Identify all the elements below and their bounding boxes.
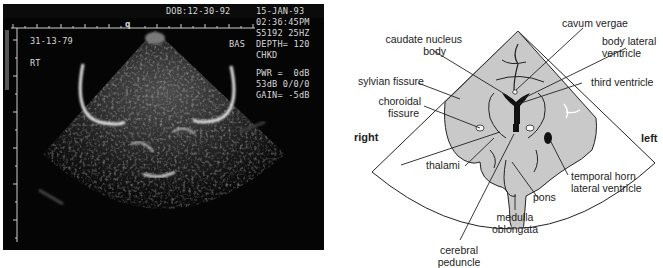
- label-cerebral-line2: peduncle: [426, 256, 492, 268]
- label-choroidal-line1: choroidal: [350, 95, 421, 107]
- label-cavum-vergae: cavum vergae: [562, 17, 628, 29]
- label-medulla-line2: oblongata: [480, 223, 550, 235]
- dob-text: DOB:12-30-92: [166, 6, 231, 16]
- date-text: 15-JAN-93: [256, 6, 304, 16]
- label-choroidal-line2: fissure: [350, 107, 419, 119]
- label-thalami: thalami: [426, 159, 460, 171]
- bas-text: BAS: [229, 39, 245, 49]
- label-third-ventricle: third ventricle: [591, 76, 653, 88]
- patient-id-text: 31-13-79: [30, 36, 73, 46]
- top-ruler-ticks: [13, 24, 253, 28]
- db-text: 53dB 0/0/0: [256, 79, 310, 89]
- label-left: left: [641, 132, 658, 144]
- label-caudate-line2: body: [350, 45, 446, 57]
- label-pons: pons: [533, 191, 556, 203]
- left-ruler-ticks: [13, 40, 17, 238]
- anatomy-diagram: cavum vergae caudate nucleus body body l…: [330, 0, 663, 268]
- depth-text: DEPTH= 120: [256, 39, 310, 49]
- marker-q: q: [125, 19, 131, 29]
- label-sylvian-fissure: sylvian fissure: [358, 75, 424, 87]
- probe-text: S5192 25HZ: [256, 28, 310, 38]
- gain-text: GAIN= -5dB: [256, 90, 310, 100]
- ultrasound-image: q DOB:12-30-92 15-JAN-93 02:36:45PM S519…: [3, 4, 324, 250]
- label-temporal-line2: lateral ventricle: [571, 182, 642, 194]
- label-caudate-line1: caudate nucleus: [350, 33, 462, 45]
- chkd-text: CHKD: [256, 50, 278, 60]
- label-body-lateral-line1: body lateral: [602, 35, 656, 47]
- label-temporal-line1: temporal horn: [571, 170, 636, 182]
- label-cerebral-line1: cerebral: [426, 244, 492, 256]
- pwr-text: PWR = 0dB: [256, 68, 310, 78]
- label-medulla-line1: medulla: [480, 211, 550, 223]
- time-text: 02:36:45PM: [256, 17, 310, 27]
- label-body-lateral-line2: ventricle: [602, 47, 641, 59]
- label-right: right: [354, 131, 378, 143]
- side-text: RT: [30, 58, 41, 68]
